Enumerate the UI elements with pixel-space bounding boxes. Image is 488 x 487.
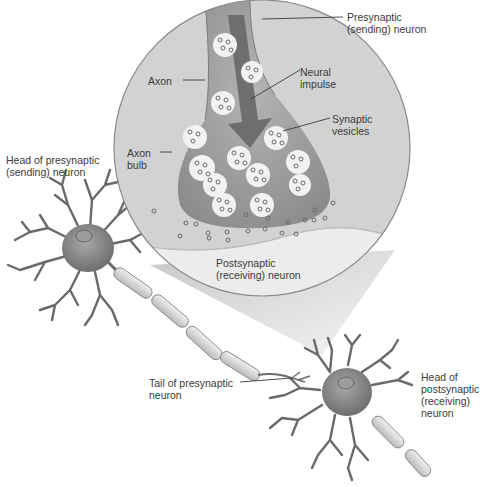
label-presynaptic-neuron: Presynaptic (sending) neuron [347,11,426,35]
postsynaptic-neuron [270,335,433,480]
postsynaptic-nucleus [338,377,354,389]
presynaptic-nucleus [76,230,92,242]
label-neural-impulse: Neural impulse [300,66,336,90]
postsynaptic-soma [322,368,372,416]
label-postsynaptic-neuron: Postsynaptic (receiving) neuron [216,257,301,281]
label-axon: Axon [148,75,172,87]
label-synaptic-vesicles: Synaptic vesicles [332,113,372,137]
label-head-postsynaptic: Head of postsynaptic (receiving) neuron [421,371,479,419]
label-axon-bulb: Axon bulb [127,147,151,171]
label-head-presynaptic: Head of presynaptic (sending) neuron [6,154,99,178]
synapse-diagram: Presynaptic (sending) neuron Axon Neural… [0,0,488,487]
label-tail-presynaptic: Tail of presynaptic neuron [149,377,233,401]
